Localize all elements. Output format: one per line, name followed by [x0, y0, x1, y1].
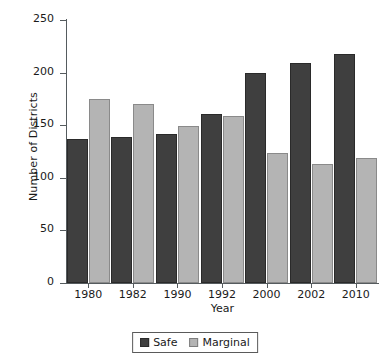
plot-area — [66, 20, 378, 283]
legend-item-marginal: Marginal — [190, 336, 250, 349]
y-axis-tick-label: 100 — [33, 170, 54, 183]
legend-item-safe: Safe — [140, 336, 177, 349]
legend-label: Safe — [153, 336, 177, 349]
legend-swatch-safe — [140, 338, 149, 347]
x-axis-tick-mark — [222, 283, 223, 288]
y-axis-tick-label: 50 — [40, 222, 54, 235]
bar-group — [201, 20, 244, 283]
x-axis-tick-mark — [311, 283, 312, 288]
bar-safe-2000 — [245, 73, 266, 283]
bar-marginal-2010 — [356, 158, 377, 283]
x-axis-tick-label: 2010 — [326, 288, 386, 301]
y-axis-tick-label: 200 — [33, 65, 54, 78]
bar-safe-2010 — [334, 54, 355, 283]
chart-legend: SafeMarginal — [132, 332, 258, 353]
bar-marginal-2000 — [267, 153, 288, 283]
x-axis-tick-mark — [177, 283, 178, 288]
bar-marginal-1992 — [223, 116, 244, 283]
bar-chart: Number of Districts 050100150200250 1980… — [0, 0, 390, 360]
legend-swatch-marginal — [190, 338, 199, 347]
x-axis-title: Year — [66, 302, 379, 315]
bar-marginal-1990 — [178, 126, 199, 283]
y-axis-title: Number of Districts — [27, 67, 40, 227]
y-axis-tick-label: 150 — [33, 117, 54, 130]
bar-marginal-1982 — [133, 104, 154, 283]
bar-marginal-1980 — [89, 99, 110, 283]
y-axis-tick-label: 0 — [47, 275, 54, 288]
x-axis-tick-mark — [88, 283, 89, 288]
bar-marginal-2002 — [312, 164, 333, 283]
legend-label: Marginal — [203, 336, 250, 349]
y-axis-tick-label: 250 — [33, 12, 54, 25]
bar-group — [156, 20, 199, 283]
x-axis-tick-mark — [356, 283, 357, 288]
bar-safe-1980 — [67, 139, 88, 283]
bar-group — [334, 20, 377, 283]
bar-safe-1992 — [201, 114, 222, 283]
bar-group — [67, 20, 110, 283]
bar-safe-2002 — [290, 63, 311, 283]
bar-group — [111, 20, 154, 283]
x-axis-tick-mark — [133, 283, 134, 288]
bar-safe-1990 — [156, 134, 177, 283]
x-axis-tick-mark — [267, 283, 268, 288]
bar-group — [290, 20, 333, 283]
bar-group — [245, 20, 288, 283]
bar-safe-1982 — [111, 137, 132, 283]
y-axis-tick-mark — [60, 283, 66, 284]
